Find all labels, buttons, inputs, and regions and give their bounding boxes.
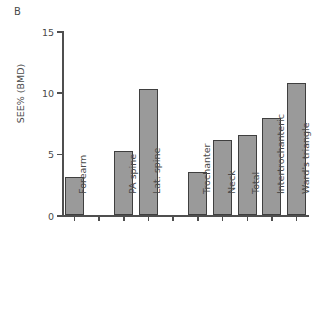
y-axis-title: SEE% (BMD) (15, 44, 26, 144)
y-tick: 15 (57, 31, 62, 33)
y-tick-label: 10 (42, 88, 54, 99)
x-tick (197, 215, 199, 221)
x-label-forearm: Forearm (78, 155, 88, 194)
y-tick-label: 15 (42, 26, 54, 37)
x-tick (271, 215, 273, 221)
plot-area: 051015 (62, 31, 309, 215)
y-tick-label: 5 (48, 149, 54, 160)
x-label-pa-spine: PA spine (128, 154, 138, 194)
x-label-ward-s-triangle: Ward's triangle (301, 122, 311, 194)
x-label-trochanter: Trochanter (202, 144, 212, 194)
x-tick (98, 215, 100, 221)
y-axis-line (62, 31, 64, 215)
x-tick (296, 215, 298, 221)
x-tick (74, 215, 76, 221)
x-tick (123, 215, 125, 221)
figure-panel-b: B SEE% (BMD) 051015 ForearmPA spineLat. … (0, 0, 316, 332)
x-label-lat-spine: Lat. spine (152, 148, 162, 194)
x-label-total: Total (251, 172, 261, 194)
x-tick (172, 215, 174, 221)
x-tick (222, 215, 224, 221)
y-tick: 10 (57, 92, 62, 94)
y-tick: 0 (57, 215, 62, 217)
x-label-neck: Neck (227, 170, 237, 194)
x-tick (247, 215, 249, 221)
x-tick (148, 215, 150, 221)
panel-label: B (14, 6, 21, 17)
y-tick: 5 (57, 154, 62, 156)
x-label-intertrochanteric: Intertrochanteric (276, 114, 286, 194)
y-tick-label: 0 (48, 210, 54, 221)
